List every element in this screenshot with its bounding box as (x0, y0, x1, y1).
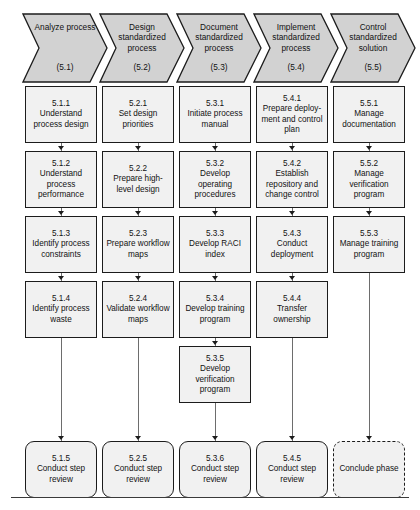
arrowhead-icon (212, 146, 218, 150)
process-node-5-1-3[interactable]: 5.1.3Identify process constraints (25, 216, 97, 273)
arrowhead-icon (135, 146, 141, 150)
arrowhead-icon (58, 146, 64, 150)
process-node-5-5-1[interactable]: 5.5.1Manage documentation (333, 86, 405, 143)
arrowhead-icon (58, 436, 64, 440)
process-node-5-3-4[interactable]: 5.3.4Develop training program (179, 281, 251, 338)
process-node-label: 5.1.4Identify process waste (28, 294, 94, 325)
process-node-5-5-2[interactable]: 5.5.2Manage verification program (333, 151, 405, 208)
process-node-conclude-phase[interactable]: Conclude phase (333, 441, 405, 498)
arrowhead-icon (135, 276, 141, 280)
connector-line (215, 403, 216, 441)
process-node-5-1-5[interactable]: 5.1.5Conduct step review (25, 441, 97, 498)
process-node-label: 5.4.4Transfer ownership (259, 294, 325, 325)
phase-header-2: Design standardized process(5.2) (99, 13, 185, 83)
phase-header-title: Document standardized process (186, 22, 252, 53)
process-node-label: 5.2.5Conduct step review (105, 454, 171, 485)
phase-header-3: Document standardized process(5.3) (176, 13, 262, 83)
process-node-5-2-5[interactable]: 5.2.5Conduct step review (102, 441, 174, 498)
process-node-label: 5.3.2Develop operating procedures (182, 159, 248, 200)
arrowhead-icon (366, 146, 372, 150)
process-node-label: Conclude phase (339, 464, 398, 474)
process-node-label: 5.3.6Conduct step review (182, 454, 248, 485)
arrowhead-icon (212, 276, 218, 280)
process-node-5-4-3[interactable]: 5.4.3Conduct deployment (256, 216, 328, 273)
process-node-label: 5.1.2Understand process performance (28, 159, 94, 200)
phase-header-number: (5.1) (22, 62, 108, 72)
process-node-label: 5.2.4Validate workflow maps (105, 294, 171, 325)
process-node-label: 5.3.3Develop RACI index (182, 229, 248, 260)
process-node-5-3-1[interactable]: 5.3.1Initiate process manual (179, 86, 251, 143)
phase-header-4: Implement standardized process(5.4) (253, 13, 339, 83)
process-node-5-3-3[interactable]: 5.3.3Develop RACI index (179, 216, 251, 273)
caption-divider (11, 497, 409, 498)
process-node-5-1-2[interactable]: 5.1.2Understand process performance (25, 151, 97, 208)
arrowhead-icon (289, 146, 295, 150)
process-node-5-4-4[interactable]: 5.4.4Transfer ownership (256, 281, 328, 338)
process-node-5-2-3[interactable]: 5.2.3Prepare workflow maps (102, 216, 174, 273)
process-node-label: 5.5.1Manage documentation (336, 99, 402, 130)
process-node-label: 5.4.3Conduct deployment (259, 229, 325, 260)
phase-header-1: Analyze process(5.1) (22, 13, 108, 83)
process-node-5-3-5[interactable]: 5.3.5Develop verification program (179, 346, 251, 403)
phase-header-title: Analyze process (32, 22, 98, 32)
phase-header-number: (5.2) (99, 62, 185, 72)
arrowhead-icon (289, 211, 295, 215)
arrowhead-icon (58, 211, 64, 215)
process-node-5-2-2[interactable]: 5.2.2Prepare high-level design (102, 151, 174, 208)
phase-header-title: Implement standardized process (263, 22, 329, 53)
connector-line (61, 338, 62, 441)
process-node-label: 5.3.4Develop training program (182, 294, 248, 325)
arrowhead-icon (289, 436, 295, 440)
process-node-5-2-1[interactable]: 5.2.1Set design priorities (102, 86, 174, 143)
arrowhead-icon (366, 211, 372, 215)
connector-line (369, 273, 370, 441)
phase-header-5: Control standardized solution(5.5) (330, 13, 416, 83)
process-flow-diagram: Analyze process(5.1)Design standardized … (0, 0, 420, 510)
connector-line (138, 338, 139, 441)
process-node-label: 5.2.1Set design priorities (105, 99, 171, 130)
phase-header-number: (5.3) (176, 62, 262, 72)
arrowhead-icon (212, 436, 218, 440)
process-node-label: 5.1.5Conduct step review (28, 454, 94, 485)
process-node-5-3-2[interactable]: 5.3.2Develop operating procedures (179, 151, 251, 208)
process-node-5-2-4[interactable]: 5.2.4Validate workflow maps (102, 281, 174, 338)
process-node-5-4-1[interactable]: 5.4.1Prepare deploy-ment and control pla… (256, 86, 328, 143)
process-node-label: 5.1.1Understand process design (28, 99, 94, 130)
process-node-label: 5.3.1Initiate process manual (182, 99, 248, 130)
process-node-label: 5.5.2Manage verification program (336, 159, 402, 200)
process-node-label: 5.3.5Develop verification program (182, 354, 248, 395)
arrowhead-icon (212, 341, 218, 345)
process-node-label: 5.4.1Prepare deploy-ment and control pla… (259, 94, 325, 135)
process-node-label: 5.5.3Manage training program (336, 229, 402, 260)
process-node-5-3-6[interactable]: 5.3.6Conduct step review (179, 441, 251, 498)
connector-line (292, 338, 293, 441)
arrowhead-icon (366, 436, 372, 440)
arrowhead-icon (212, 211, 218, 215)
arrowhead-icon (135, 436, 141, 440)
process-node-label: 5.4.2Establish repository and change con… (259, 159, 325, 200)
process-node-label: 5.2.2Prepare high-level design (105, 164, 171, 195)
phase-header-title: Design standardized process (109, 22, 175, 53)
process-node-label: 5.4.5Conduct step review (259, 454, 325, 485)
phase-header-title: Control standardized solution (340, 22, 406, 53)
arrowhead-icon (135, 211, 141, 215)
arrowhead-icon (289, 276, 295, 280)
phase-header-number: (5.5) (330, 62, 416, 72)
phase-header-number: (5.4) (253, 62, 339, 72)
process-node-5-4-2[interactable]: 5.4.2Establish repository and change con… (256, 151, 328, 208)
process-node-label: 5.1.3Identify process constraints (28, 229, 94, 260)
process-node-5-1-4[interactable]: 5.1.4Identify process waste (25, 281, 97, 338)
process-node-5-1-1[interactable]: 5.1.1Understand process design (25, 86, 97, 143)
process-node-5-4-5[interactable]: 5.4.5Conduct step review (256, 441, 328, 498)
arrowhead-icon (58, 276, 64, 280)
process-node-5-5-3[interactable]: 5.5.3Manage training program (333, 216, 405, 273)
process-node-label: 5.2.3Prepare workflow maps (105, 229, 171, 260)
